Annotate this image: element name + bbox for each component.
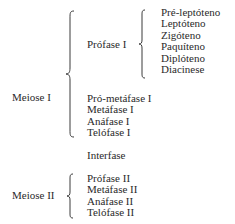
phase-telofase-2: Telófase II <box>87 207 137 218</box>
meiose-2-phases: Prófase II Metáfase II Anáfase II Telófa… <box>87 173 137 219</box>
profase-1-subphases: Pré-leptóteno Leptóteno Zigóteno Paquíte… <box>161 7 220 75</box>
meiose-1-brace <box>64 10 76 138</box>
meiose-2-brace <box>65 173 75 219</box>
phase-telofase-1: Telófase I <box>87 127 151 138</box>
subphase-paquiteno: Paquíteno <box>161 41 220 52</box>
meiose-1-label: Meiose I <box>12 92 51 103</box>
profase-1-brace <box>137 9 147 79</box>
meiose-2-label: Meiose II <box>12 190 54 201</box>
profase-1-label: Prófase I <box>87 39 126 50</box>
subphase-diacinese: Diacinese <box>161 64 220 75</box>
interfase-label: Interfase <box>87 150 125 161</box>
meiose-1-phases: Pró-metáfase I Metáfase I Anáfase I Teló… <box>87 93 151 139</box>
